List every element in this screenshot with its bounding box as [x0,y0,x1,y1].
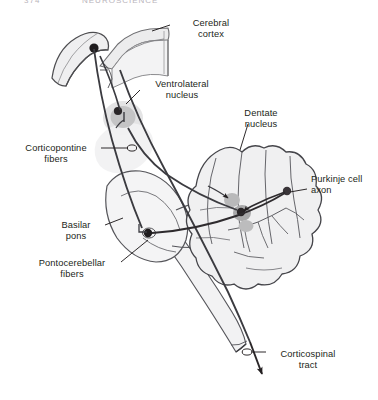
basilar-pons [106,171,188,262]
label-corticospinal-tract: Corticospinal tract [269,349,347,372]
vl-neuron-soma [114,107,122,115]
anatomy-illustration [0,0,378,400]
label-purkinje-cell-axon: Purkinje cell axon [311,174,378,197]
ventrolateral-nucleus [111,106,136,128]
figure-canvas: 374 NEUROSCIENCE [0,0,378,400]
label-cerebral-cortex: Cerebral cortex [174,18,248,41]
label-basilar-pons: Basilar pons [48,220,104,243]
label-dentate-nucleus: Dentate nucleus [228,108,294,131]
cerebellum [186,146,321,289]
label-pontocerebellar-fibers: Pontocerebellar fibers [24,258,120,281]
pontine-neuron-soma [144,229,152,237]
label-ventrolateral-nucleus: Ventrolateral nucleus [141,79,223,102]
label-corticopontine-fibers: Corticopontine fibers [12,143,100,166]
leader-ellipse-corticospinal [242,349,252,355]
